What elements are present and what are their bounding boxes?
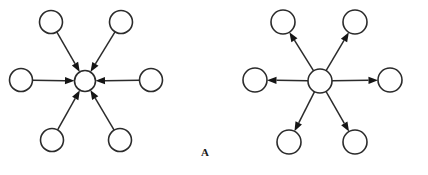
edge-hub-node-to-node-right bbox=[332, 80, 369, 81]
converging-star-graph-node-top-left bbox=[40, 11, 63, 34]
edge-hub-node-to-node-top-right bbox=[326, 40, 344, 70]
converging-star-graph-nodes bbox=[10, 11, 163, 152]
arrow-head-hub-node bbox=[90, 62, 98, 72]
edge-node-bottom-right-to-hub-node bbox=[95, 98, 114, 130]
diverging-star-graph-nodes bbox=[243, 10, 402, 154]
arrow-head-hub-node bbox=[90, 90, 98, 100]
converging-star-graph-node-right bbox=[140, 69, 163, 92]
diverging-star-graph-hub-node bbox=[308, 69, 332, 93]
arrow-head-hub-node bbox=[96, 77, 106, 84]
edge-node-bottom-left-to-hub-node bbox=[58, 98, 76, 130]
converging-star-graph-node-top-right bbox=[110, 11, 133, 34]
arrow-head-node-bottom-left bbox=[294, 121, 302, 131]
diverging-star-graph-node-top-left bbox=[271, 10, 295, 34]
edge-node-right-to-hub-node bbox=[105, 80, 140, 81]
converging-star-graph-node-bottom-left bbox=[41, 129, 64, 152]
diverging-star-graph-node-left bbox=[243, 68, 267, 92]
converging-star-graph-node-bottom-right bbox=[109, 129, 132, 152]
arrow-head-node-right bbox=[368, 77, 378, 84]
arrow-head-hub-node bbox=[65, 77, 75, 84]
arrow-head-node-top-left bbox=[289, 32, 297, 42]
figure-container: A bbox=[0, 0, 428, 175]
converging-star-graph-node-left bbox=[10, 69, 33, 92]
star-graph-figure bbox=[0, 0, 428, 175]
diverging-star-graph-node-top-right bbox=[343, 10, 367, 34]
diverging-star-graph-node-right bbox=[378, 68, 402, 92]
arrow-head-node-left bbox=[267, 77, 277, 84]
edge-hub-node-to-node-bottom-right bbox=[326, 91, 344, 123]
arrow-head-hub-node bbox=[72, 62, 80, 72]
converging-star-graph-hub-node bbox=[75, 71, 96, 92]
edge-hub-node-to-node-top-left bbox=[294, 40, 313, 71]
diverging-star-graph-node-bottom-left bbox=[277, 130, 301, 154]
figure-caption: A bbox=[201, 146, 209, 158]
arrow-head-node-top-right bbox=[341, 32, 349, 42]
diverging-star-graph-node-bottom-right bbox=[343, 130, 367, 154]
arrow-head-hub-node bbox=[72, 90, 80, 100]
edge-hub-node-to-node-bottom-left bbox=[299, 92, 315, 123]
arrow-head-node-bottom-right bbox=[341, 122, 349, 132]
edge-node-top-left-to-hub-node bbox=[57, 32, 75, 64]
edge-node-left-to-hub-node bbox=[33, 80, 66, 81]
edge-node-top-right-to-hub-node bbox=[95, 32, 115, 64]
